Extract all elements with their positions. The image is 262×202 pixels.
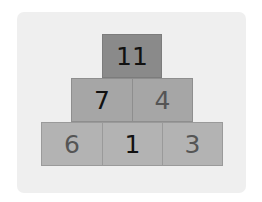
pyramid-cell-bottom-center: 1 — [102, 122, 163, 166]
pyramid-cell-middle-left: 7 — [71, 78, 133, 122]
pyramid-cell-bottom-right: 3 — [162, 122, 223, 166]
pyramid-cell-top: 11 — [102, 34, 162, 78]
pyramid-cell-bottom-left: 6 — [41, 122, 103, 166]
pyramid-cell-middle-right: 4 — [132, 78, 193, 122]
